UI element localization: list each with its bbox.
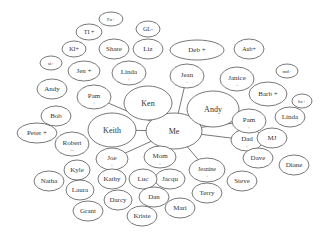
node-label: Kyle (70, 166, 84, 174)
node-liz[interactable]: Liz (133, 39, 163, 59)
node-label: Jen + (76, 67, 91, 75)
node-mari[interactable]: Mari (165, 198, 195, 218)
node-label: hv+ (298, 99, 306, 104)
node-label: Linda (121, 68, 138, 76)
node-laura[interactable]: Laura (66, 180, 94, 200)
node-label: Laura (72, 186, 89, 194)
node-sign: + (111, 163, 114, 168)
node-hv[interactable]: hv+ (292, 94, 312, 108)
node-label: md+ (282, 69, 291, 74)
node-label: MJ (268, 134, 277, 142)
node-gl[interactable]: GL- (136, 21, 160, 37)
node-label: Jacqu (162, 175, 178, 183)
node-label: Bob (50, 112, 62, 120)
node-kriste[interactable]: Kriste (127, 206, 157, 226)
node-tl[interactable]: TI + (76, 24, 102, 40)
node-label: Pam (243, 116, 256, 124)
node-label: Pam (88, 92, 101, 100)
node-label: si+ (48, 61, 54, 66)
node-fa[interactable]: Fa+ (99, 12, 123, 26)
node-sign: + (159, 161, 162, 166)
node-label: Dad (241, 135, 253, 143)
node-mom[interactable]: Mom+ (144, 146, 176, 168)
node-label: Liz (143, 45, 152, 53)
node-label: Kathy (103, 175, 121, 183)
node-label: Joe (107, 154, 116, 162)
node-barb[interactable]: Barb + (249, 82, 287, 106)
node-jacqu[interactable]: Jacqu (155, 169, 185, 189)
node-luc[interactable]: Luc (129, 169, 157, 189)
node-label: Natha (41, 177, 59, 185)
node-label: Ken (141, 99, 154, 108)
node-darcy[interactable]: Darcy (104, 190, 132, 210)
node-pam-right[interactable]: Pam+ (232, 109, 266, 133)
node-sign: + (246, 144, 249, 149)
node-linda-top[interactable]: Linda+ (112, 61, 146, 85)
node-share[interactable]: Share (99, 39, 129, 59)
node-dan[interactable]: Dan (139, 187, 169, 207)
node-robert[interactable]: Robert-- (55, 132, 89, 156)
node-mj[interactable]: MJ (257, 128, 287, 148)
node-deb[interactable]: Deb + (170, 40, 224, 60)
node-label: Peter + (27, 129, 47, 137)
node-label: Share (106, 45, 122, 53)
node-andy-big[interactable]: Andy (187, 91, 239, 127)
node-natha[interactable]: Natha (34, 171, 64, 191)
node-label: Robert (62, 139, 81, 147)
node-label: Andy (44, 85, 60, 93)
node-label: Linda (282, 113, 299, 121)
node-ki[interactable]: KI+ (62, 41, 86, 57)
node-label: Dave (251, 154, 266, 162)
node-label: Dan (148, 193, 160, 201)
node-kyle[interactable]: Kyle (64, 160, 90, 180)
node-joe[interactable]: Joe+ (96, 148, 128, 170)
node-aub[interactable]: Aub+ (234, 39, 264, 59)
social-network-diagram: MeKenKeithAndyJean-Janice-Dad+Mom+Joe+Je… (0, 0, 323, 233)
node-label: Jean (181, 71, 194, 79)
node-md[interactable]: md+ (276, 64, 298, 78)
node-jean[interactable]: Jean- (170, 64, 204, 88)
node-label: Deb + (188, 46, 205, 54)
node-grant[interactable]: Grant (73, 201, 103, 221)
node-diane[interactable]: Diane (279, 155, 309, 175)
node-label: Keith (103, 126, 121, 135)
node-linda-right[interactable]: Linda (275, 107, 305, 127)
node-pam-left[interactable]: Pam+ (77, 85, 111, 109)
node-label: Me (169, 127, 180, 136)
node-label: Steve (234, 177, 250, 185)
node-label: Janice (228, 74, 246, 82)
node-sign: + (206, 174, 209, 179)
node-janice[interactable]: Janice- (220, 67, 254, 91)
node-terry[interactable]: Terry (192, 183, 222, 203)
node-label: Mari (173, 204, 187, 212)
node-label: Grant (80, 207, 96, 215)
node-label: TI + (84, 29, 95, 35)
node-kathy[interactable]: Kathy (98, 169, 126, 189)
node-label: Luc (138, 175, 149, 183)
node-steve[interactable]: Steve (227, 171, 257, 191)
node-label: GL- (143, 26, 153, 32)
node-sign: + (248, 125, 251, 130)
node-label: Aub+ (242, 46, 256, 52)
node-dave[interactable]: Dave (243, 148, 273, 168)
node-label: Terry (199, 189, 215, 197)
node-si[interactable]: si+ (40, 56, 62, 70)
node-jen[interactable]: Jen + (68, 61, 100, 81)
node-sign: + (128, 77, 131, 82)
node-andy-small[interactable]: Andy (37, 79, 67, 99)
node-label: Diane (286, 161, 303, 169)
node-label: Fa+ (107, 17, 115, 22)
node-peter[interactable]: Peter + (17, 123, 57, 143)
node-label: Mom (152, 152, 168, 160)
node-label: Andy (204, 105, 222, 114)
node-ken[interactable]: Ken (124, 86, 172, 120)
node-jeanine[interactable]: Jeanine+ (189, 158, 225, 182)
node-label: Barb + (258, 90, 277, 98)
node-sign: + (93, 101, 96, 106)
node-label: Kriste (133, 212, 150, 220)
node-sign: -- (70, 148, 74, 153)
nodes-layer: MeKenKeithAndyJean-Janice-Dad+Mom+Joe+Je… (17, 12, 312, 226)
node-bob[interactable]: Bob (41, 106, 71, 126)
node-keith[interactable]: Keith (88, 113, 136, 147)
node-label: KI+ (69, 46, 79, 52)
